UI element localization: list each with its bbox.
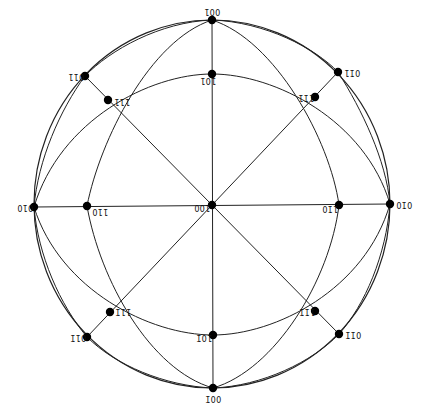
pole-marker-p111 [104,96,112,104]
pole-label-p100: 100 [194,203,210,211]
stereographic-projection-diagram: 00110101111101̄111̄101011010011̄001̄0111… [0,0,423,406]
pole-label-p0m10: 01̄0 [396,200,412,208]
pole-label-p00m1: 001̄ [205,394,221,402]
great-circle-arc [34,207,213,388]
pole-label-p001: 001 [204,7,220,15]
pole-label-p10m1: 101̄ [196,333,212,341]
pole-marker-p0m11 [334,68,342,76]
pole-label-p011: 011 [68,72,84,80]
projection-net [0,0,423,406]
pole-marker-p11m1 [106,308,114,316]
pole-label-p11m1: 111̄ [115,307,131,315]
pole-label-p111: 111 [114,97,130,105]
pole-marker-p0m1m1 [335,330,343,338]
great-circle-arc [34,20,212,207]
pole-marker-p00m1 [209,384,217,392]
pole-label-p01m1: 011̄ [70,333,86,341]
pole-label-p010: 010 [17,203,33,211]
pole-marker-p110 [83,202,91,210]
pole-label-p0m11: 01̄1 [344,68,360,76]
pole-label-p1m1m1: 11̄1̄ [299,307,315,315]
pole-label-p101: 101 [200,76,216,84]
pole-label-p0m1m1: 01̄1̄ [345,330,361,338]
pole-label-p1m11: 11̄1 [298,93,314,101]
pole-label-p1m10: 11̄0 [322,204,338,212]
pole-marker-p0m10 [386,200,394,208]
pole-label-p110: 110 [92,207,108,215]
pole-marker-p001 [208,16,216,24]
great-circle-arc [34,204,390,335]
